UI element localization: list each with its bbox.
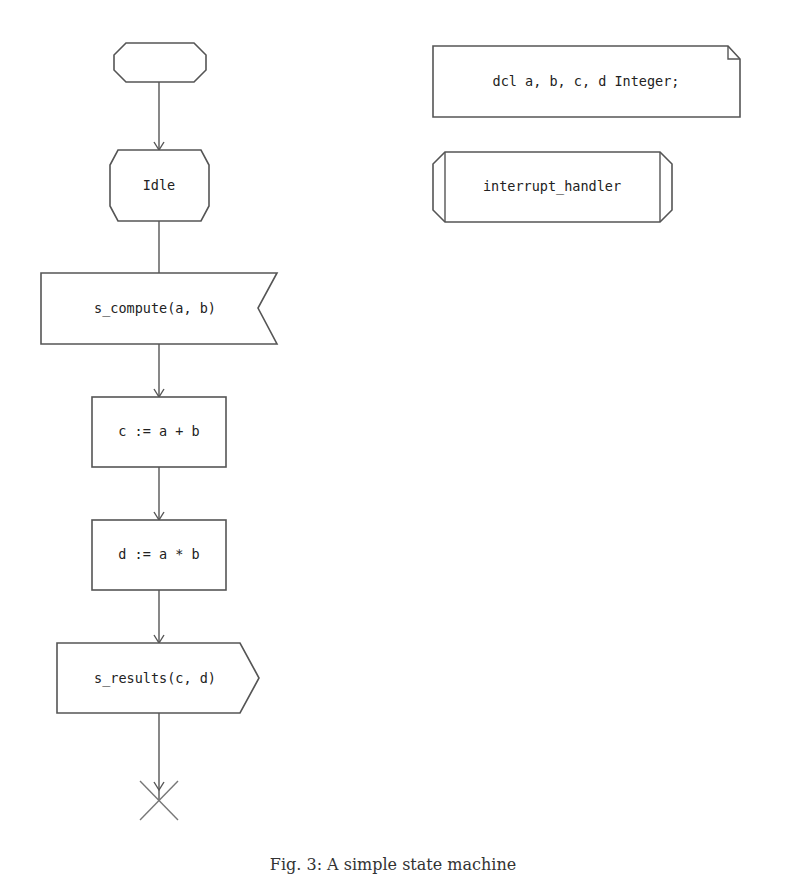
procedure-label: interrupt_handler — [483, 178, 621, 195]
output-signal-s-results[interactable]: s_results(c, d) — [57, 643, 259, 713]
start-node[interactable] — [114, 43, 206, 82]
task-d-assign[interactable]: d := a * b — [92, 520, 226, 590]
figure-caption: Fig. 3: A simple state machine — [0, 855, 786, 874]
state-label: Idle — [143, 177, 176, 193]
start-shape — [114, 43, 206, 82]
input-signal-s-compute[interactable]: s_compute(a, b) — [41, 273, 277, 344]
task-c-assign[interactable]: c := a + b — [92, 397, 226, 467]
procedure-interrupt-handler[interactable]: interrupt_handler — [433, 152, 672, 222]
task-label: d := a * b — [118, 546, 199, 562]
task-label: c := a + b — [118, 423, 199, 439]
state-idle[interactable]: Idle — [110, 150, 209, 221]
output-label: s_results(c, d) — [94, 670, 216, 687]
declarations-label: dcl a, b, c, d Integer; — [493, 73, 680, 89]
input-label: s_compute(a, b) — [94, 300, 216, 317]
text-area-declarations[interactable]: dcl a, b, c, d Integer; — [433, 46, 740, 117]
